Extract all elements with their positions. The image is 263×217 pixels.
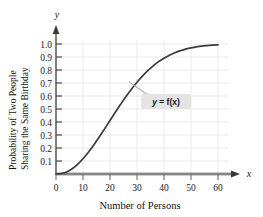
y-tick-label-0.3: 0.3 [40,131,52,141]
x-tick-label-50: 50 [186,183,196,193]
x-tick-label-10: 10 [78,183,88,193]
annotation-fn: f(x) [167,97,180,107]
annotation-label: y = f(x) [151,97,180,107]
y-tick-label-0.4: 0.4 [40,118,52,128]
x-tick-label-40: 40 [159,183,169,193]
y-tick-label-0.8: 0.8 [40,66,52,76]
y-tick-label-0.5: 0.5 [40,105,52,115]
x-tick-label-0: 0 [54,183,59,193]
y-tick-label-0.7: 0.7 [40,79,52,89]
y-tick-label-0.1: 0.1 [40,157,52,167]
y-tick-label-0.6: 0.6 [40,92,52,102]
chart-svg: y 1.0 0.9 0.8 0.7 0.6 0.5 0.4 0.3 0.2 0.… [0,0,263,217]
birthday-probability-chart: y 1.0 0.9 0.8 0.7 0.6 0.5 0.4 0.3 0.2 0.… [0,0,263,217]
y-tick-label-0.2: 0.2 [40,144,52,154]
y-axis-title-line1: Probability of Two People [8,70,18,170]
y-tick-label-0.9: 0.9 [40,53,52,63]
y-axis-symbol: y [54,9,60,20]
x-tick-label-20: 20 [105,183,115,193]
x-axis-title: Number of Persons [99,200,180,211]
annotation-eq: = [157,97,167,107]
y-tick-label-1.0: 1.0 [40,40,52,50]
y-axis-title-line2: Sharing the Same Birthday [20,67,30,170]
x-tick-label-60: 60 [213,183,223,193]
x-tick-label-30: 30 [132,183,142,193]
x-axis-symbol: x [246,168,252,179]
